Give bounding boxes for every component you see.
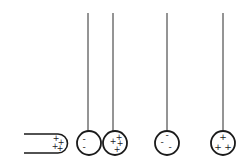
charge: -: [165, 130, 168, 140]
pith-ball-4: + + +: [211, 131, 235, 155]
charge: -: [168, 142, 171, 152]
rod-charge: +: [57, 144, 64, 153]
charged-rod: + + + +: [24, 134, 67, 153]
charge: +: [114, 145, 121, 154]
pith-ball-1: - -: [77, 131, 101, 155]
pith-ball-3: - - -: [155, 130, 179, 155]
charge: -: [160, 137, 163, 147]
rod-charges: + + + +: [52, 134, 65, 153]
charge: +: [214, 142, 222, 152]
induction-diagram: + + + + - - + + + + - - - + + +: [0, 0, 252, 168]
pith-ball-2: + + + +: [103, 131, 127, 155]
charge: +: [219, 132, 227, 142]
charge: +: [224, 142, 232, 152]
charge: -: [82, 142, 85, 152]
